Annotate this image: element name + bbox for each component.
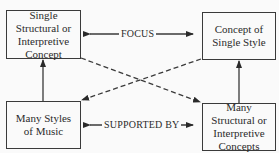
node-line: Interpretive (16, 35, 71, 48)
node-many-styles-of-music: Many Styles of Music (6, 101, 81, 149)
node-line: of Music (16, 125, 71, 138)
node-line: Many Styles (16, 112, 71, 125)
node-line: Single (16, 9, 71, 22)
node-single-structural-concept: Single Structural or Interpretive Concep… (6, 10, 81, 59)
node-line: Structural or (211, 114, 266, 127)
focus-label: FOCUS (119, 28, 156, 40)
node-line: Structural or (16, 22, 71, 35)
node-line: Many (211, 101, 266, 114)
node-many-structural-concepts: Many Structural or Interpretive Concepts (202, 103, 276, 151)
node-concept-of-single-style: Concept of Single Style (202, 12, 276, 60)
supported-by-label: SUPPORTED BY (102, 119, 181, 131)
node-line: Concepts (211, 140, 266, 153)
node-line: Single Style (212, 36, 265, 49)
node-line: Concept (16, 48, 71, 61)
node-line: Interpretive (211, 127, 266, 140)
node-line: Concept of (212, 23, 265, 36)
